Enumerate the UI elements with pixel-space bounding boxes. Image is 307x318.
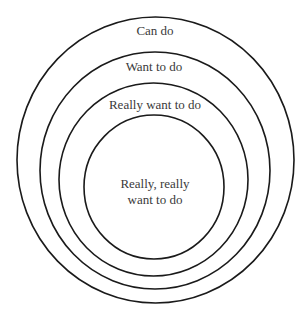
- label-want-to-do: Want to do: [126, 59, 183, 74]
- label-really-want-to-do: Really want to do: [109, 97, 201, 112]
- label-can-do: Can do: [136, 23, 173, 38]
- label-really-really-line1: Really, really: [120, 176, 190, 191]
- label-really-really-line2: want to do: [128, 192, 183, 207]
- circle-want-to-do: [40, 52, 270, 289]
- nested-circles-diagram: Can do Want to do Really want to do Real…: [0, 0, 307, 318]
